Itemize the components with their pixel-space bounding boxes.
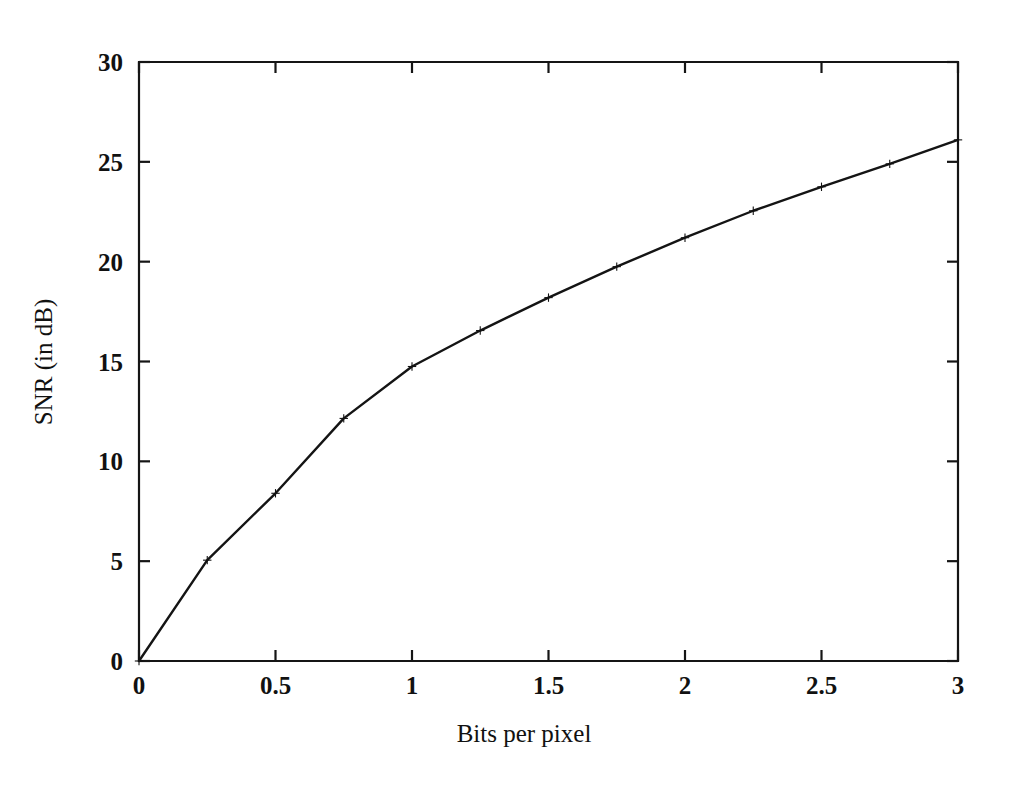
data-series-layer — [139, 140, 958, 661]
y-axis-ticks — [139, 62, 958, 661]
data-point-marker — [886, 160, 894, 168]
x-tick-label-5: 2.5 — [806, 672, 837, 699]
data-point-marker — [817, 183, 825, 191]
figure-canvas: 00.511.522.53 051015202530 Bits per pixe… — [0, 0, 1010, 790]
y-axis-label: SNR (in dB) — [30, 299, 58, 425]
y-tick-label-6: 30 — [98, 49, 123, 76]
x-tick-label-2: 1 — [406, 672, 419, 699]
x-tick-label-1: 0.5 — [260, 672, 291, 699]
x-tick-label-6: 3 — [952, 672, 965, 699]
x-axis-tick-labels: 00.511.522.53 — [133, 672, 965, 699]
plot-frame — [139, 62, 958, 661]
y-tick-label-5: 25 — [98, 149, 123, 176]
x-axis-ticks — [139, 62, 958, 661]
data-markers-layer — [135, 136, 962, 666]
y-tick-label-3: 15 — [98, 349, 123, 376]
axis-box — [139, 62, 958, 661]
data-point-marker — [954, 136, 962, 144]
snr-vs-bitrate-chart: 00.511.522.53 051015202530 Bits per pixe… — [0, 0, 1010, 790]
data-point-marker — [749, 207, 757, 215]
y-tick-label-0: 0 — [111, 648, 124, 675]
y-tick-label-1: 5 — [111, 548, 124, 575]
data-point-marker — [613, 262, 621, 270]
x-tick-label-3: 1.5 — [533, 672, 564, 699]
data-point-marker — [476, 326, 484, 334]
x-axis-label: Bits per pixel — [457, 720, 592, 747]
data-point-marker — [544, 293, 552, 301]
y-tick-label-2: 10 — [98, 448, 123, 475]
y-tick-label-4: 20 — [98, 249, 123, 276]
x-tick-label-4: 2 — [679, 672, 692, 699]
x-tick-label-0: 0 — [133, 672, 146, 699]
data-point-marker — [681, 234, 689, 242]
y-axis-tick-labels: 051015202530 — [98, 49, 123, 675]
snr-curve — [139, 140, 958, 661]
